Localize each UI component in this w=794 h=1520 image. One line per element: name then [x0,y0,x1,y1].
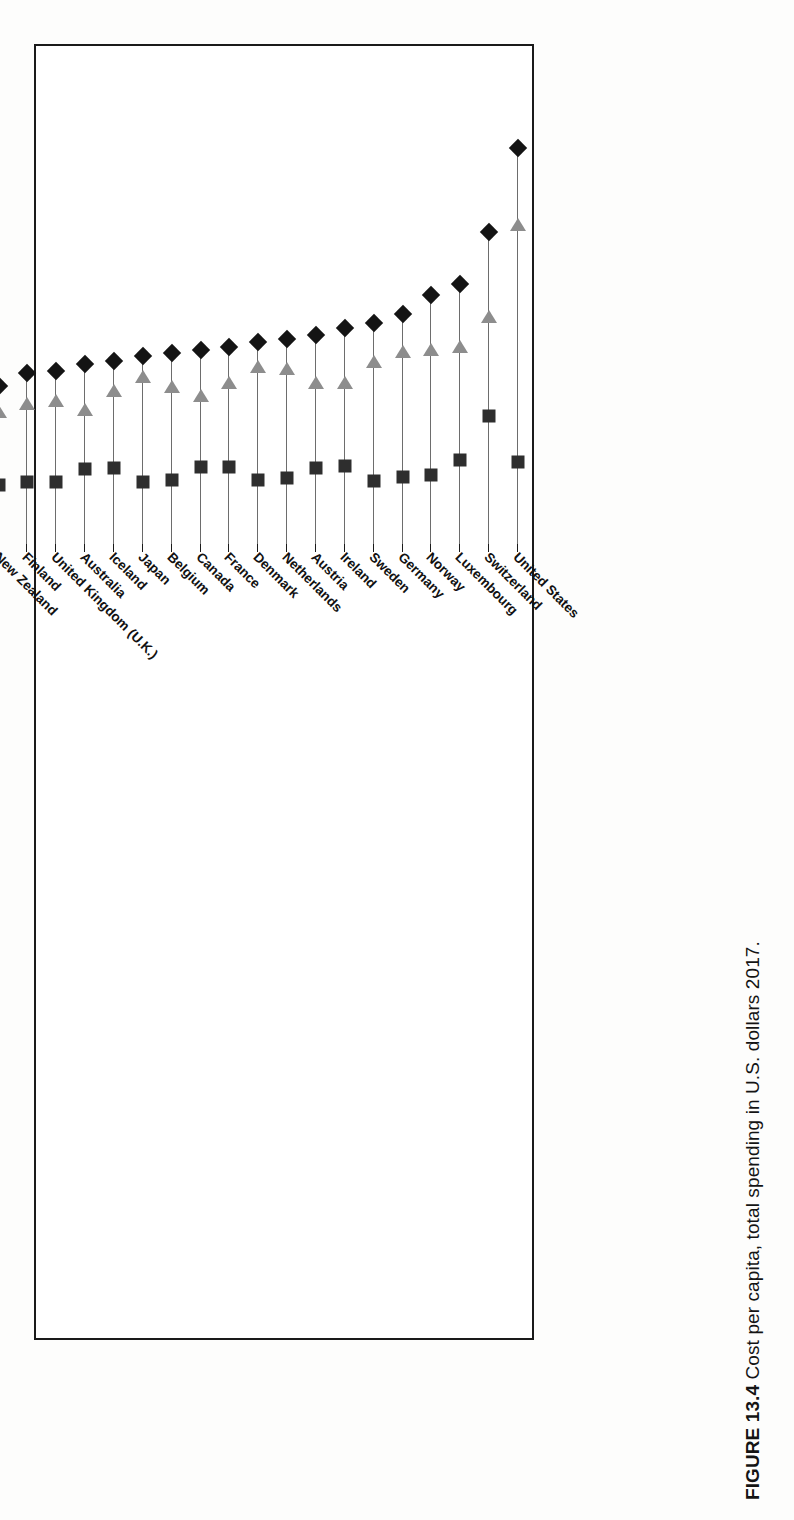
figure-caption-text: Cost per capita, total spending in U.S. … [742,941,763,1379]
figure-page: United StatesSwitzerlandLuxembourgNorway… [0,0,794,1520]
marker-voluntary-square-icon [21,476,34,489]
marker-total-diamond-icon [0,376,8,394]
chart-stage: United StatesSwitzerlandLuxembourgNorway… [34,44,534,1340]
figure-number: FIGURE 13.4 [742,1385,763,1500]
value-axis: 12k10k8k6k4k2k0k [34,44,534,1340]
marker-government-triangle-icon [0,405,7,418]
figure-caption: FIGURE 13.4 Cost per capita, total spend… [742,70,764,1500]
marker-voluntary-square-icon [0,478,5,491]
